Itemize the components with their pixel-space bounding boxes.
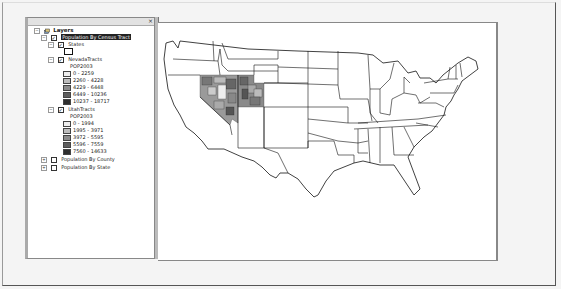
legend-swatch (63, 99, 71, 105)
legend-class-label: 0 - 2259 (73, 70, 94, 76)
legend-class: 4229 - 6448 (63, 84, 103, 91)
legend-class: 5596 - 7559 (63, 141, 103, 148)
visibility-checkbox[interactable]: ✓ (58, 107, 64, 113)
legend-class-label: 4229 - 6448 (73, 84, 103, 90)
legend-class-label: 6449 - 10236 (73, 91, 107, 97)
legend-swatch (63, 92, 71, 98)
visibility-checkbox[interactable]: ✓ (51, 35, 57, 41)
map-display[interactable] (158, 22, 498, 261)
visibility-checkbox[interactable]: ✓ (58, 42, 64, 48)
visibility-checkbox[interactable] (51, 165, 57, 171)
legend-swatch (63, 78, 71, 84)
legend-class-label: 7560 - 14633 (73, 148, 107, 154)
collapse-toggle[interactable]: − (34, 28, 40, 34)
legend-class-label: 10237 - 18717 (73, 98, 110, 104)
legend-swatch (63, 71, 71, 77)
layer-states[interactable]: − ✓ States (48, 41, 84, 48)
layer-nevada-tracts[interactable]: − ✓ NevadaTracts (48, 56, 102, 63)
collapse-toggle[interactable]: − (48, 42, 54, 48)
legend-class-label: 1995 - 3971 (73, 127, 103, 133)
close-icon[interactable]: × (148, 18, 153, 23)
group-population-by-census-tract[interactable]: − ✓ Population By Census Tract (41, 34, 131, 41)
legend-swatch (63, 85, 71, 91)
visibility-checkbox[interactable] (51, 157, 57, 163)
legend-class: 10237 - 18717 (63, 98, 110, 105)
layers-label: Layers (53, 27, 73, 33)
collapse-toggle[interactable]: − (48, 107, 54, 113)
group-population-by-state[interactable]: + Population By State (41, 164, 110, 171)
legend-swatch (63, 135, 71, 141)
group-label: Population By State (61, 164, 110, 170)
legend-class: 1995 - 3971 (63, 127, 103, 134)
legend-class: 6449 - 10236 (63, 91, 107, 98)
legend-swatch (63, 128, 71, 134)
table-of-contents-panel: × − Layers − ✓ Population By Census Trac… (25, 17, 155, 259)
tree-root-layers[interactable]: − Layers (34, 27, 74, 34)
legend-class: 3972 - 5595 (63, 134, 103, 141)
collapse-toggle[interactable]: − (41, 35, 47, 41)
expand-toggle[interactable]: + (41, 157, 47, 163)
states-symbol (64, 48, 73, 55)
legend-class: 0 - 2259 (63, 70, 94, 77)
layer-label: States (68, 41, 84, 47)
collapse-toggle[interactable]: − (48, 57, 54, 63)
legend-class: 7560 - 14633 (63, 148, 107, 155)
legend-class-label: 2260 - 4228 (73, 77, 103, 83)
group-label[interactable]: Population By Census Tract (61, 34, 131, 40)
legend-swatch (63, 149, 71, 155)
visibility-checkbox[interactable]: ✓ (58, 57, 64, 63)
layer-utah-tracts[interactable]: − ✓ UtahTracts (48, 106, 95, 113)
layer-label: UtahTracts (68, 106, 95, 112)
legend-class: 2260 - 4228 (63, 77, 103, 84)
us-states-map[interactable] (158, 23, 496, 260)
group-label: Population By County (61, 156, 115, 162)
legend-class: 0 - 1994 (63, 120, 94, 127)
layer-label: NevadaTracts (68, 56, 102, 62)
field-heading: POP2003 (70, 113, 93, 120)
legend-class-label: 0 - 1994 (73, 120, 94, 126)
field-heading: POP2003 (70, 63, 93, 70)
legend-swatch (63, 142, 71, 148)
us-outline (164, 41, 478, 197)
legend-class-label: 5596 - 7559 (73, 141, 103, 147)
layers-icon (44, 28, 50, 34)
toc-titlebar[interactable]: × (28, 18, 154, 26)
expand-toggle[interactable]: + (41, 165, 47, 171)
legend-swatch (63, 121, 71, 127)
hollow-polygon-symbol (64, 48, 73, 55)
group-population-by-county[interactable]: + Population By County (41, 156, 115, 163)
legend-class-label: 3972 - 5595 (73, 134, 103, 140)
